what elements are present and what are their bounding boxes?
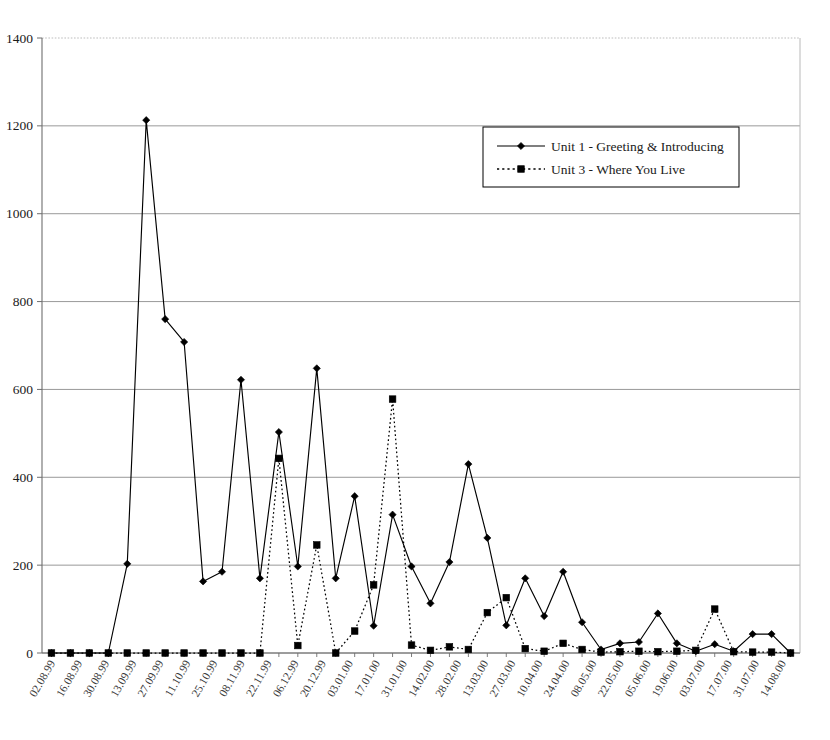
y-axis-tick-label: 1200 <box>6 118 33 133</box>
x-axis-tick-labels: 02.08.9916.08.9930.08.9913.09.9927.09.99… <box>27 658 789 699</box>
y-axis-tick-label: 800 <box>13 294 34 309</box>
legend-label: Unit 3 - Where You Live <box>551 162 685 177</box>
y-axis-tick-label: 0 <box>26 646 33 661</box>
data-series-layer <box>48 117 794 657</box>
y-axis-tick-label: 600 <box>13 382 34 397</box>
x-axis-tick-label: 11.10.99 <box>162 658 192 699</box>
y-axis-tick-labels: 0200400600800100012001400 <box>6 31 42 661</box>
y-axis-tick-label: 200 <box>13 558 34 573</box>
chart-legend: Unit 1 - Greeting & IntroducingUnit 3 - … <box>483 127 739 187</box>
y-axis-tick-label: 1400 <box>6 31 33 46</box>
chart-container: 0200400600800100012001400 02.08.9916.08.… <box>0 0 830 740</box>
y-axis-tick-label: 400 <box>13 470 34 485</box>
legend-label: Unit 1 - Greeting & Introducing <box>551 139 724 154</box>
series-1 <box>48 117 794 657</box>
x-axis-tick-label: 14.08.00 <box>758 658 789 699</box>
x-axis-tick-label: 08.11.99 <box>216 658 246 699</box>
chart-plot: 0200400600800100012001400 02.08.9916.08.… <box>0 0 830 740</box>
series-2 <box>48 396 794 657</box>
y-axis-tick-label: 1000 <box>6 206 33 221</box>
x-axis-tick-label: 22.11.99 <box>244 658 274 699</box>
